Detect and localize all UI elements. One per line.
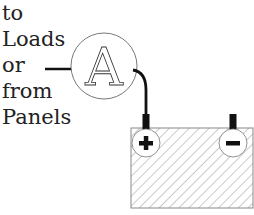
ammeter: A	[71, 33, 137, 99]
positive-post	[143, 114, 150, 129]
battery	[131, 114, 253, 208]
ammeter-symbol: A	[84, 37, 124, 97]
negative-post	[230, 114, 237, 129]
wiring-diagram: A	[0, 0, 254, 215]
minus-icon	[226, 141, 240, 146]
